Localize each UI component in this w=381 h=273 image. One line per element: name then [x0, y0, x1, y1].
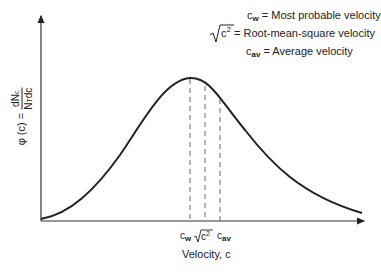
- tick-rms: c2: [201, 230, 210, 242]
- y-axis-label: φ (c) = dNc NTdc: [10, 67, 35, 167]
- legend-cw: cw = Most probable velocity: [247, 9, 381, 23]
- distribution-curve: [41, 78, 362, 219]
- x-axis-label: Velocity, c: [182, 248, 231, 260]
- tick-cav: cav: [217, 230, 231, 243]
- legend-rms: c2 = Root-mean-square velocity: [221, 25, 375, 39]
- tick-cw: cw: [180, 230, 191, 243]
- legend-cav: cav = Average velocity: [246, 45, 353, 59]
